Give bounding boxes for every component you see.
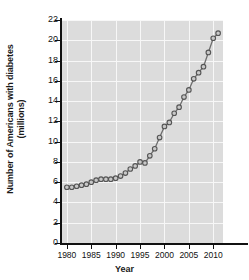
x-axis-tick — [91, 245, 92, 249]
data-point — [69, 185, 74, 190]
data-point — [84, 182, 89, 187]
data-point — [94, 178, 99, 183]
y-axis-tick-label: 6 — [0, 176, 58, 186]
data-point — [143, 161, 148, 166]
data-point — [79, 183, 84, 188]
data-point — [128, 167, 133, 172]
x-axis-tick — [189, 245, 190, 249]
data-point — [152, 146, 157, 151]
x-axis-title: Year — [0, 264, 249, 274]
data-point — [191, 76, 196, 81]
x-axis-tick — [67, 245, 68, 249]
data-point — [99, 177, 104, 182]
x-axis-tick — [164, 245, 165, 249]
data-point — [133, 164, 138, 169]
y-axis-tick-label: 20 — [0, 34, 58, 44]
data-point — [65, 185, 70, 190]
data-point — [113, 176, 118, 181]
x-axis-tick — [116, 245, 117, 249]
y-axis-tick-label: 12 — [0, 115, 58, 125]
y-axis-tick-label: 2 — [0, 217, 58, 227]
data-point — [157, 135, 162, 140]
data-point — [211, 36, 216, 41]
data-point — [216, 31, 221, 36]
data-point — [108, 177, 113, 182]
data-point — [74, 184, 79, 189]
data-point — [177, 105, 182, 110]
data-point — [162, 124, 167, 129]
y-axis-tick-label: 14 — [0, 95, 58, 105]
x-axis-tick — [140, 245, 141, 249]
chart-figure: Number of Americans with diabetes (milli… — [0, 0, 249, 280]
data-point — [167, 120, 172, 125]
y-axis-tick-label: 10 — [0, 136, 58, 146]
data-markers — [65, 31, 221, 190]
y-axis-tick-label: 16 — [0, 75, 58, 85]
data-point — [89, 180, 94, 185]
data-point — [118, 174, 123, 179]
data-point — [104, 177, 109, 182]
data-point — [206, 50, 211, 55]
y-axis-tick-label: 0 — [0, 237, 58, 247]
data-point — [187, 88, 192, 93]
data-point — [182, 95, 187, 100]
data-point — [138, 160, 143, 165]
data-point — [172, 111, 177, 116]
data-point — [123, 171, 128, 176]
y-axis-tick-label: 22 — [0, 14, 58, 24]
data-point — [148, 154, 153, 159]
x-axis-tick — [213, 245, 214, 249]
x-axis-tick-label: 2010 — [196, 250, 230, 260]
y-axis-tick-label: 18 — [0, 55, 58, 65]
data-point — [201, 64, 206, 69]
y-axis-tick-label: 4 — [0, 196, 58, 206]
data-point — [196, 70, 201, 75]
y-axis-tick-label: 8 — [0, 156, 58, 166]
